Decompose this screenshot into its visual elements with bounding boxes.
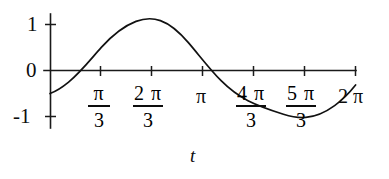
- x-label-pi-over-3: π 3: [88, 83, 110, 130]
- x-label-2pi: 2 π: [338, 86, 363, 106]
- fraction-bar: [88, 105, 110, 107]
- x-label-4pi-over-3: 4 π 3: [236, 83, 266, 130]
- x-axis-name: t: [190, 146, 195, 165]
- x-label-2pi-over-3: 2 π 3: [133, 83, 163, 130]
- x-label-5pi-over-3-numerator: 5 π: [286, 83, 316, 104]
- x-label-5pi-over-3: 5 π 3: [286, 83, 316, 130]
- x-label-4pi-over-3-denominator: 3: [246, 109, 256, 130]
- sine-curve-figure: 1 0 -1 π 3 2 π 3 π 4 π 3 5 π 3 2 π t: [0, 0, 389, 179]
- y-label-0: 0: [26, 60, 37, 81]
- x-label-4pi-over-3-numerator: 4 π: [236, 83, 266, 104]
- fraction-bar: [236, 105, 266, 107]
- x-label-2pi-over-3-numerator: 2 π: [133, 83, 163, 104]
- fraction-bar: [286, 105, 316, 107]
- x-label-pi-over-3-numerator: π: [92, 83, 105, 104]
- y-label-1: 1: [27, 14, 38, 35]
- x-label-2pi-over-3-denominator: 3: [143, 109, 153, 130]
- x-label-pi-over-3-denominator: 3: [94, 109, 104, 130]
- x-label-pi: π: [196, 86, 206, 106]
- fraction-bar: [133, 105, 163, 107]
- y-label-minus-1: -1: [13, 106, 31, 127]
- x-label-5pi-over-3-denominator: 3: [296, 109, 306, 130]
